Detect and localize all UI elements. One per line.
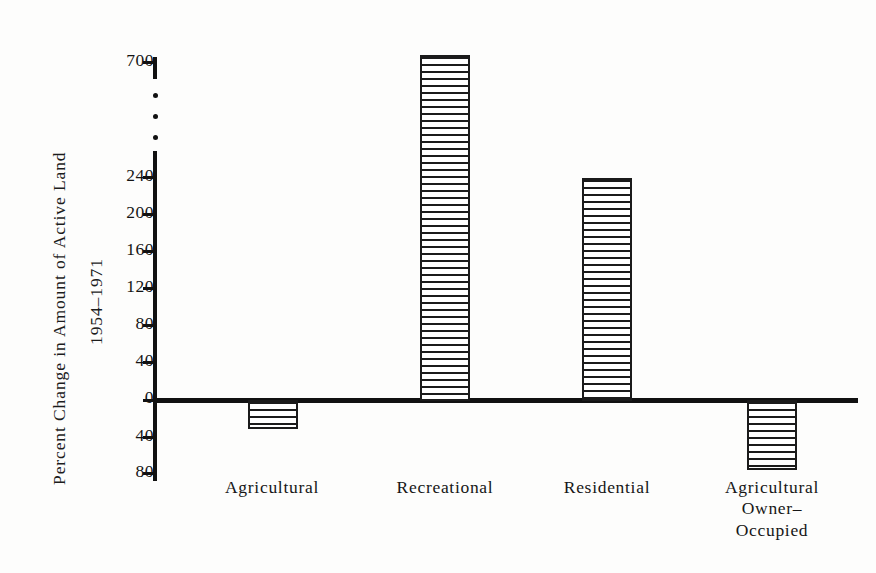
axis-break-dot-2 bbox=[153, 114, 158, 119]
x-label-recreational: Recreational bbox=[365, 477, 525, 498]
y-tick-label-minus-80: 80 bbox=[96, 463, 154, 481]
x-label-agricultural-owner-occupied-line-3: Occupied bbox=[692, 520, 852, 541]
x-label-residential: Residential bbox=[527, 477, 687, 498]
x-label-agricultural-owner-occupied-line-2: Owner– bbox=[692, 498, 852, 519]
x-label-agricultural-owner-occupied-line-1: Agricultural bbox=[692, 477, 852, 498]
x-label-residential-line-1: Residential bbox=[527, 477, 687, 498]
x-label-agricultural: Agricultural bbox=[192, 477, 352, 498]
x-label-agricultural-owner-occupied: Agricultural Owner– Occupied bbox=[692, 477, 852, 541]
x-label-recreational-line-1: Recreational bbox=[365, 477, 525, 498]
y-tick-label-minus-40: 40 bbox=[96, 427, 154, 445]
plot-area: 700 240 200 160 120 80 40 bbox=[0, 0, 876, 573]
bar-agricultural-owner-occupied[interactable] bbox=[747, 400, 797, 470]
x-label-agricultural-line-1: Agricultural bbox=[192, 477, 352, 498]
y-tick-label-40: 40 bbox=[96, 352, 154, 370]
y-tick-label-200: 200 bbox=[96, 204, 154, 222]
y-tick-label-700: 700 bbox=[96, 52, 154, 70]
y-tick-label-120: 120 bbox=[96, 278, 154, 296]
axis-break-dot-3 bbox=[153, 135, 158, 140]
y-tick-label-240: 240 bbox=[96, 167, 154, 185]
bar-residential[interactable] bbox=[582, 178, 632, 401]
chart-canvas: Percent Change in Amount of Active Land … bbox=[0, 0, 876, 573]
y-tick-label-80: 80 bbox=[96, 315, 154, 333]
axis-break-dot-1 bbox=[153, 93, 158, 98]
bar-recreational[interactable] bbox=[420, 55, 470, 401]
bar-agricultural[interactable] bbox=[248, 400, 298, 429]
y-tick-label-0: 0 bbox=[96, 389, 154, 407]
y-tick-label-160: 160 bbox=[96, 241, 154, 259]
